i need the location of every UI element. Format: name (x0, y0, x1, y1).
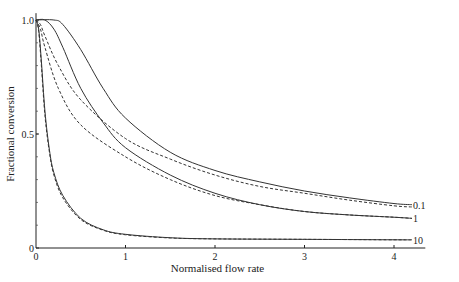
axes: 0123400.51.0 (22, 13, 426, 262)
y-tick-label: 0 (29, 243, 34, 254)
y-tick-label: 1.0 (22, 15, 35, 26)
line-chart: 0123400.51.0 0.1110 (0, 0, 459, 282)
curve-1-solid- (36, 19, 412, 218)
y-tick-label: 0.5 (22, 129, 35, 140)
curve-1-dashed- (36, 20, 412, 218)
curves (36, 19, 412, 240)
x-axis-label: Normalised flow rate (0, 262, 447, 274)
curve-10-solid- (36, 20, 412, 240)
curve-label: 1 (413, 213, 418, 224)
curve-labels: 0.1110 (413, 200, 426, 246)
curve-0-1-solid- (36, 20, 412, 205)
x-tick-label: 1 (123, 251, 128, 262)
curve-label: 0.1 (413, 200, 426, 211)
curve-10-dashed- (36, 20, 412, 240)
y-axis-label: Fractional conversion (4, 74, 16, 194)
curve-label: 10 (413, 235, 423, 246)
x-tick-label: 4 (392, 251, 397, 262)
x-tick-label: 2 (213, 251, 218, 262)
x-tick-label: 0 (34, 251, 39, 262)
x-tick-label: 3 (302, 251, 307, 262)
curve-0-1-dashed- (36, 20, 412, 207)
